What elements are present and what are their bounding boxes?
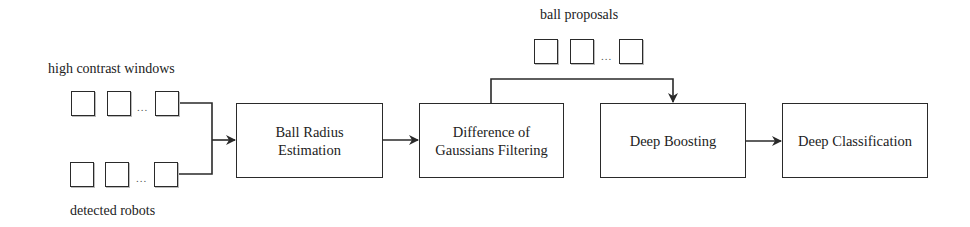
proposal-square-icon bbox=[619, 39, 643, 64]
ellipsis: ... bbox=[137, 101, 148, 113]
stage-label-line1: Ball Radius bbox=[275, 123, 343, 141]
stage-deep-boosting: Deep Boosting bbox=[600, 103, 746, 178]
proposal-square-icon bbox=[570, 39, 594, 64]
robot-square-icon bbox=[105, 162, 129, 187]
window-square-icon bbox=[155, 91, 179, 116]
stage-label: Deep Boosting bbox=[630, 132, 717, 150]
robot-square-icon bbox=[154, 162, 178, 187]
stage-label-line2: Estimation bbox=[275, 141, 343, 159]
robot-square-icon bbox=[70, 162, 94, 187]
stage-difference-of-gaussians-filtering: Difference of Gaussians Filtering bbox=[419, 103, 564, 178]
stage-label-line2: Gaussians Filtering bbox=[435, 141, 547, 159]
ellipsis: ... bbox=[601, 50, 612, 62]
stage-ball-radius-estimation: Ball Radius Estimation bbox=[236, 103, 383, 178]
stage-label-line1: Difference of bbox=[435, 123, 547, 141]
ball-proposals-label: ball proposals bbox=[540, 7, 618, 23]
window-square-icon bbox=[107, 91, 131, 116]
high-contrast-windows-label: high contrast windows bbox=[48, 61, 175, 77]
stage-deep-classification: Deep Classification bbox=[782, 103, 928, 178]
detected-robots-label: detected robots bbox=[70, 203, 155, 219]
window-square-icon bbox=[71, 91, 95, 116]
ellipsis: ... bbox=[136, 172, 147, 184]
proposal-square-icon bbox=[534, 39, 558, 64]
stage-label: Deep Classification bbox=[798, 132, 912, 150]
